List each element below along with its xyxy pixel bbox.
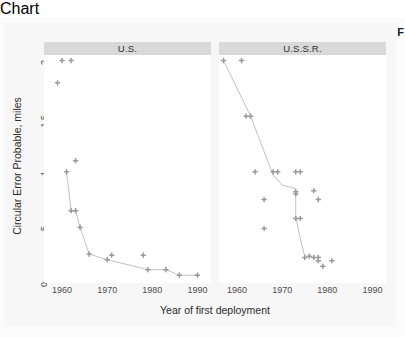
data-point[interactable]	[253, 170, 257, 174]
data-point[interactable]	[69, 58, 73, 62]
data-point[interactable]	[73, 159, 77, 163]
data-point[interactable]	[298, 216, 302, 220]
data-point[interactable]	[321, 264, 325, 268]
data-point[interactable]	[298, 170, 302, 174]
x-tick-label: 1970	[97, 285, 117, 295]
panel-strip-label: U.S.	[44, 42, 211, 55]
data-point[interactable]	[262, 197, 266, 201]
trend-line	[67, 172, 198, 275]
data-point[interactable]	[312, 255, 316, 259]
x-tick-label: 1970	[272, 285, 292, 295]
data-point[interactable]	[248, 114, 252, 118]
chart-figure: Circular Error Probable, miles 0.511.52 …	[0, 18, 405, 337]
data-point[interactable]	[294, 192, 298, 196]
x-tick-label: 1980	[142, 285, 162, 295]
data-point[interactable]	[330, 259, 334, 263]
data-point[interactable]	[221, 58, 225, 62]
panel-title: U.S.	[118, 43, 137, 54]
x-tick-label: 1990	[362, 285, 382, 295]
data-point[interactable]	[294, 170, 298, 174]
data-point[interactable]	[316, 259, 320, 263]
corner-mark: F	[397, 26, 404, 38]
data-point[interactable]	[307, 254, 311, 258]
x-axis-ticks: 1960197019801990	[219, 285, 386, 299]
data-point[interactable]	[239, 58, 243, 62]
data-point[interactable]	[294, 216, 298, 220]
data-point[interactable]	[177, 273, 181, 277]
x-tick-label: 1980	[317, 285, 337, 295]
data-point[interactable]	[312, 189, 316, 193]
panel-strip-label: U.S.S.R.	[219, 42, 386, 55]
data-point[interactable]	[303, 255, 307, 259]
data-point[interactable]	[60, 58, 64, 62]
data-point[interactable]	[244, 114, 248, 118]
x-tick-label: 1960	[52, 285, 72, 295]
data-point[interactable]	[105, 258, 109, 262]
plot-area[interactable]	[219, 55, 386, 283]
data-point[interactable]	[141, 253, 145, 257]
data-point[interactable]	[276, 170, 280, 174]
x-axis-ticks: 1960197019801990	[44, 285, 211, 299]
data-point[interactable]	[78, 225, 82, 229]
data-point[interactable]	[262, 226, 266, 230]
data-point[interactable]	[195, 273, 199, 277]
data-point[interactable]	[110, 253, 114, 257]
x-axis-title: Year of first deployment	[40, 304, 390, 318]
data-point[interactable]	[55, 81, 59, 85]
data-point[interactable]	[87, 252, 91, 256]
x-tick-label: 1990	[187, 285, 207, 295]
data-point[interactable]	[146, 268, 150, 272]
data-point[interactable]	[69, 209, 73, 213]
data-point[interactable]	[164, 268, 168, 272]
panel-title: U.S.S.R.	[283, 43, 322, 54]
data-point[interactable]	[64, 170, 68, 174]
plot-area[interactable]	[44, 55, 211, 283]
data-point[interactable]	[73, 209, 77, 213]
data-point[interactable]	[316, 197, 320, 201]
x-tick-label: 1960	[227, 285, 247, 295]
y-axis-ticks: 0.511.52	[20, 18, 44, 337]
